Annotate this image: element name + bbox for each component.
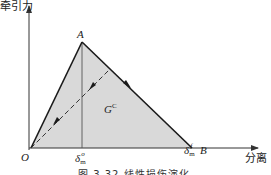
figure-caption: 图 3.32 线性损伤演化 [78, 166, 190, 175]
delta-onset-label: δom [75, 153, 88, 165]
delta-failure-subscript: m [189, 151, 194, 158]
traction-separation-diagram: 牵引力 分离 O A B GC δom δfm 图 3.32 线性损伤演化 [0, 0, 271, 175]
delta-failure-superscript: f [190, 143, 192, 150]
energy-superscript: C [112, 102, 117, 110]
energy-symbol: G [104, 103, 112, 115]
fracture-energy-label: GC [104, 103, 117, 115]
peak-point-label: A [77, 29, 84, 40]
end-point-label: B [200, 145, 207, 156]
fracture-energy-area [31, 42, 192, 148]
delta-failure-label: δfm [184, 145, 197, 157]
delta-onset-superscript: o [81, 151, 85, 158]
origin-label: O [21, 152, 29, 163]
y-axis-label: 牵引力 [0, 1, 33, 12]
diagram-canvas [0, 0, 271, 175]
x-axis-label: 分离 [245, 153, 267, 164]
delta-onset-subscript: m [80, 159, 85, 166]
